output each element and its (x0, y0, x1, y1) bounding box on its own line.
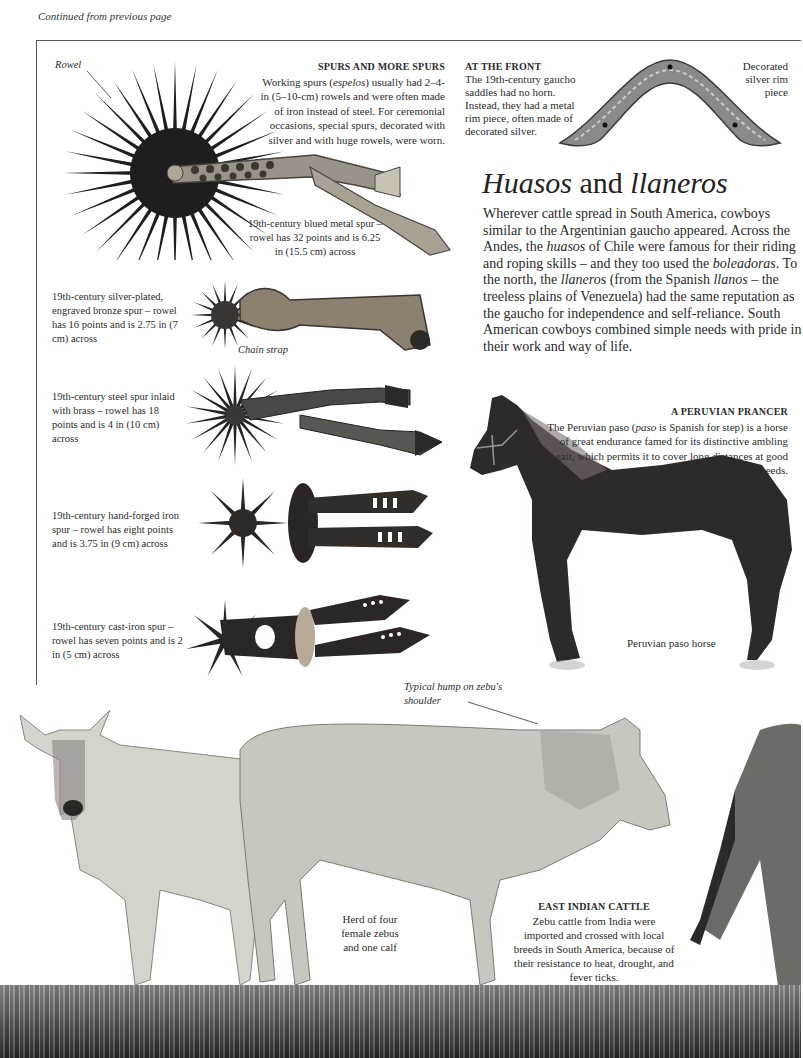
spurs-box-caption: SPURS AND MORE SPURS Working spurs (espe… (255, 60, 445, 147)
spur-caption-4: 19th-century hand-forged iron spur – row… (52, 509, 182, 551)
section-body: Wherever cattle spread in South America,… (483, 206, 803, 355)
spur-caption-1: 19th-century blued metal spur – rowel ha… (245, 217, 385, 259)
herd-label: Herd of four female zebus and one calf (335, 912, 405, 954)
frame-top-rule (36, 40, 801, 41)
rowel-label: Rowel (55, 58, 81, 72)
rowel-pointer-line (86, 70, 116, 100)
zebu-herd-image (0, 700, 801, 1000)
continued-note: Continued from previous page (38, 10, 171, 22)
cattle-caption: EAST INDIAN CATTLE Zebu cattle from Indi… (513, 900, 675, 984)
horse-label: Peruvian paso horse (627, 636, 716, 650)
spur-caption-2: 19th-century silver-plated, engraved bro… (52, 290, 182, 346)
spur-caption-3: 19th-century steel spur inlaid with bras… (52, 390, 182, 446)
spur-image-cast-iron (185, 585, 455, 680)
spurs-box-heading: SPURS AND MORE SPURS (255, 60, 445, 75)
spur-image-silver-plated (180, 270, 440, 360)
prancer-heading: A PERUVIAN PRANCER (540, 405, 788, 420)
rim-piece-label: Decorated silver rim piece (720, 60, 788, 99)
frame-left-rule (36, 40, 37, 685)
spur-image-hand-forged (183, 478, 443, 578)
dirt-ground-shade (0, 985, 801, 1058)
cattle-heading: EAST INDIAN CATTLE (513, 900, 675, 914)
prancer-caption: A PERUVIAN PRANCER The Peruvian paso (pa… (540, 405, 788, 478)
section-title: Huasos and llaneros (482, 166, 728, 200)
spur-caption-5: 19th-century cast-iron spur – rowel has … (52, 620, 187, 662)
spur-image-steel-brass (180, 360, 450, 470)
chain-strap-label: Chain strap (238, 343, 288, 357)
zebu-hump-pointer-line (468, 700, 548, 730)
